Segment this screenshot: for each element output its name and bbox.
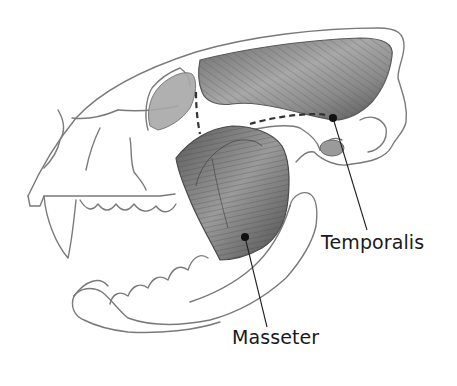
masseter-label: Masseter bbox=[232, 326, 319, 348]
temporalis-pointer bbox=[329, 114, 367, 230]
temporalis-muscle bbox=[199, 38, 393, 120]
masseter-muscle bbox=[176, 126, 289, 260]
orbit-shading bbox=[148, 73, 195, 130]
skull-diagram bbox=[0, 0, 457, 386]
temporalis-label: Temporalis bbox=[321, 231, 424, 253]
